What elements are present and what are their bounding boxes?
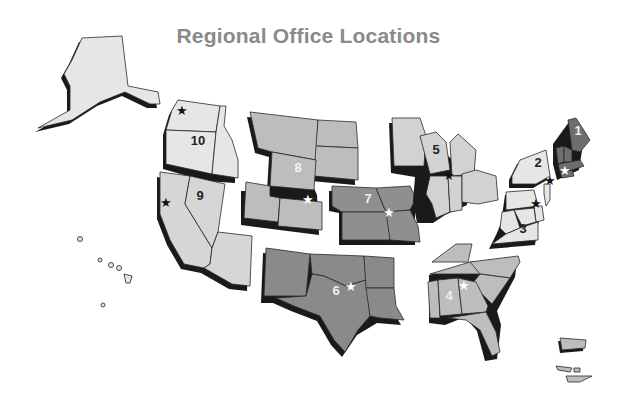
region-6[interactable]: 6 ★: [261, 248, 404, 357]
region-1-office-star: ★: [559, 163, 571, 178]
region-9[interactable]: 9 ★: [157, 172, 252, 291]
region-7-label: 7: [364, 191, 371, 206]
region-5-label: 5: [432, 142, 439, 157]
region-6-label: 6: [332, 283, 339, 298]
alaska[interactable]: [35, 36, 160, 132]
region-6-office-star: ★: [345, 279, 357, 294]
region-9-office-star: ★: [160, 195, 172, 210]
region-1[interactable]: 1 ★: [553, 118, 590, 180]
hawaii[interactable]: [78, 237, 133, 308]
region-4[interactable]: 4 ★: [428, 244, 520, 361]
region-2-office-star: ★: [544, 173, 556, 188]
region-3-office-star: ★: [530, 196, 542, 211]
puerto-rico-virgin-islands[interactable]: [556, 338, 592, 382]
region-2-label: 2: [534, 155, 541, 170]
region-4-office-star: ★: [458, 278, 470, 293]
region-1-label: 1: [574, 123, 581, 138]
region-7-office-star: ★: [383, 205, 395, 220]
region-9-label: 9: [196, 188, 203, 203]
region-10-label: 10: [191, 133, 205, 148]
region-3-label: 3: [519, 221, 526, 236]
region-10[interactable]: 10 ★: [163, 100, 238, 183]
region-7[interactable]: 7 ★: [329, 186, 420, 245]
region-5-office-star: ★: [443, 168, 455, 183]
us-regional-map: 10 ★ 9 ★ 8 ★ 7 ★: [0, 0, 617, 403]
region-4-label: 4: [445, 288, 453, 303]
region-8-office-star: ★: [302, 192, 314, 207]
region-8-label: 8: [294, 160, 301, 175]
region-10-office-star: ★: [176, 103, 188, 118]
